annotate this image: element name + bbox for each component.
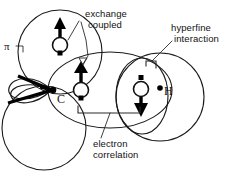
spin-interaction-diagram: π C H [0,0,229,177]
exchange-coupled-line1: exchange [85,8,127,19]
hydrogen-nucleus-dot [157,85,163,91]
pi-lobe-bar-lower [8,90,52,103]
right-spin [134,75,149,117]
hyperfine-leader-line [152,41,172,61]
carbon-nucleus-dot [50,87,56,93]
exchange-coupled-line2: coupled [88,19,122,30]
central-spin-circle [74,83,89,98]
upper-left-spin-tail [58,51,63,56]
right-spin-circle [134,82,149,97]
central-spin-tail [79,96,84,101]
electron-correlation-line2: correlation [93,149,138,160]
upper-left-spin-circle [53,38,68,53]
diagram-canvas: π C H [0,0,229,177]
central-spin-head [74,61,88,73]
electron-correlation-annotation: electron correlation [78,106,140,160]
electron-correlation-bracket [78,106,140,113]
pi-orbital-label: π [4,40,10,52]
electron-correlation-line1: electron [93,138,128,149]
exchange-leader-upper [68,21,79,40]
right-large-circle [116,53,204,141]
lower-left-circle [2,86,86,170]
right-spin-tail [139,75,144,80]
central-ellipse [48,52,172,128]
exchange-coupled-annotation: exchange coupled [68,8,127,65]
electron-correlation-leader-line [101,113,110,138]
right-spin-head [134,103,148,117]
upper-left-spin [53,17,68,56]
hyperfine-line1: hyperfine [171,22,211,33]
hyperfine-line2: interaction [174,33,219,44]
central-spin [74,61,89,101]
upper-left-spin-head [54,17,66,29]
hyperfine-interaction-annotation: hyperfine interaction [146,22,219,68]
pi-leader-line [16,46,23,52]
hydrogen-atom-label: H [164,84,173,98]
carbon-atom-label: C [57,92,65,106]
